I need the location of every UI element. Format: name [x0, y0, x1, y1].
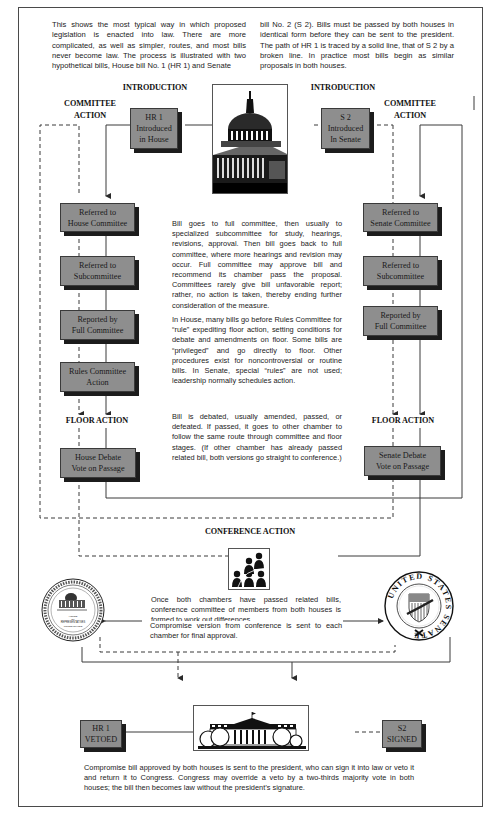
stage-introduction-house: INTRODUCTION — [120, 82, 190, 94]
box-senate-committee: Referred to Senate Committee — [363, 203, 438, 232]
president-explanation: Compromise bill approved by both houses … — [84, 763, 414, 794]
box-hr1-introduced: HR 1 Introduced in House — [130, 108, 178, 149]
box-house-debate: House Debate Vote on Passage — [60, 448, 136, 478]
stage-committee-senate-line2: ACTION — [380, 110, 440, 122]
box-senate-subcommittee: Referred to Subcommittee — [363, 256, 438, 286]
box-house-committee: Referred to House Committee — [60, 203, 135, 232]
senate-seal-icon: UNITED STATES SENATE — [383, 570, 455, 642]
house-seal-icon: HOUSE OF REPRESENTATIVES UNITED STATES — [41, 578, 105, 642]
capitol-icon — [213, 85, 288, 194]
white-house-icon — [194, 706, 309, 751]
senate-seal: UNITED STATES SENATE — [383, 570, 455, 642]
conference-committee-icon — [229, 549, 270, 590]
svg-text:UNITED STATES: UNITED STATES — [64, 625, 83, 628]
stage-committee-house: COMMITTEE ACTION — [60, 98, 120, 122]
stage-committee-house-line1: COMMITTEE — [60, 98, 120, 110]
house-seal: HOUSE OF REPRESENTATIVES UNITED STATES — [41, 578, 105, 642]
box-house-full-committee: Reported by Full Committee — [60, 310, 135, 340]
stage-committee-house-line2: ACTION — [60, 110, 120, 122]
stage-committee-senate: COMMITTEE ACTION — [380, 98, 440, 122]
box-senate-full-committee: Reported by Full Committee — [363, 306, 438, 336]
stage-conference: CONFERENCE ACTION — [200, 526, 300, 538]
box-house-subcommittee: Referred to Subcommittee — [60, 256, 135, 286]
box-senate-debate: Senate Debate Vote on Passage — [364, 446, 441, 476]
committee-explanation: Bill goes to full committee, then usuall… — [172, 219, 342, 311]
capitol-illustration — [212, 84, 288, 194]
box-s2-introduced: S 2 Introduced In Senate — [321, 108, 370, 149]
rules-explanation: In House, many bills go before Rules Com… — [172, 315, 342, 386]
box-hr1-vetoed: HR 1 VETOED — [80, 720, 122, 748]
white-house-illustration — [193, 705, 309, 751]
stage-committee-senate-line1: COMMITTEE — [380, 98, 440, 110]
stage-floor-house: FLOOR ACTION — [62, 415, 132, 427]
compromise-explanation: Compromise version from conference is se… — [150, 621, 342, 641]
conference-illustration — [228, 548, 270, 590]
box-s2-signed: S2 SIGNED — [382, 720, 422, 748]
box-rules-committee: Rules Committee Action — [60, 362, 135, 392]
svg-text:REPRESENTATIVES: REPRESENTATIVES — [61, 620, 86, 624]
stage-introduction-senate: INTRODUCTION — [308, 82, 378, 94]
floor-explanation: Bill is debated, usually amended, passed… — [172, 412, 342, 463]
stage-floor-senate: FLOOR ACTION — [368, 415, 438, 427]
